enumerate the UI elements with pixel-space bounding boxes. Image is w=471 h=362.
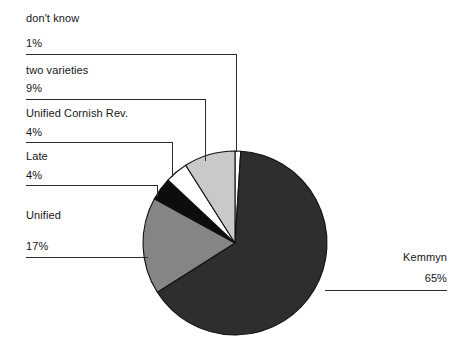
label-dont-know-name: don't know xyxy=(26,12,79,25)
pie-slices xyxy=(143,151,327,335)
label-two-varieties-percent: 9% xyxy=(26,82,42,95)
label-late-percent: 4% xyxy=(26,169,42,182)
label-dont-know-percent: 1% xyxy=(26,37,42,50)
label-kemmyn-name: Kemmyn xyxy=(347,251,447,264)
pie-chart-figure xyxy=(0,0,471,362)
label-kemmyn-percent: 65% xyxy=(347,272,447,285)
chart-canvas: don't know 1% two varieties 9% Unified C… xyxy=(0,0,471,362)
label-unified-cornish-rev-percent: 4% xyxy=(26,126,42,139)
leader-line-late xyxy=(26,186,158,197)
label-unified-percent: 17% xyxy=(26,240,48,253)
label-unified-name: Unified xyxy=(26,209,61,222)
label-unified-cornish-rev-name: Unified Cornish Rev. xyxy=(26,107,128,120)
label-two-varieties-name: two varieties xyxy=(26,64,88,77)
label-late-name: Late xyxy=(26,150,48,163)
leader-line-unified-cornish-rev xyxy=(26,143,173,177)
